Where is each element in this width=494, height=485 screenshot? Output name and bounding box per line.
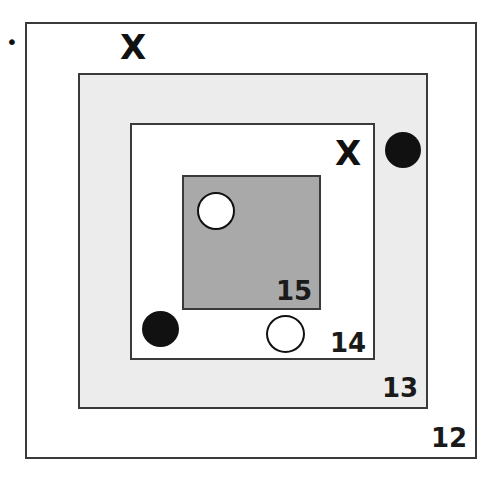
- label-12: 12: [431, 425, 467, 451]
- hollow-circle-marker: [197, 192, 235, 230]
- x-marker-box14: X: [335, 136, 361, 170]
- bullet-dot: •: [6, 30, 18, 54]
- label-15: 15: [276, 278, 312, 304]
- label-13: 13: [382, 375, 418, 401]
- label-14: 14: [330, 330, 366, 356]
- filled-circle-marker: [142, 311, 179, 347]
- x-marker-top: X: [120, 30, 146, 64]
- filled-circle-marker: [385, 132, 421, 168]
- hollow-circle-marker: [266, 315, 305, 353]
